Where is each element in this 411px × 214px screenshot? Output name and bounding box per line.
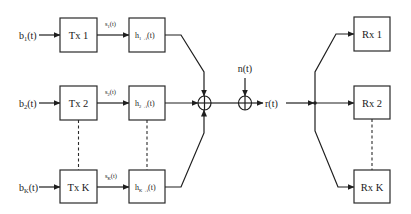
signal-label-sk: sK(t) xyxy=(105,172,117,181)
user-chain-k: bK(t) Tx K sK(t) hK→i(t) xyxy=(19,110,204,203)
channel-wire-k xyxy=(165,110,204,187)
rx-label-2: Rx 2 xyxy=(362,98,382,109)
noise-label: n(t) xyxy=(238,63,252,75)
signal-label-s1: s1(t) xyxy=(105,20,116,29)
block-diagram: b1(t) Tx 1 s1(t) h1→i(t) b2(t) Tx 2 s2(t… xyxy=(0,0,411,214)
input-label-b1: b1(t) xyxy=(19,30,37,43)
signal-label-s2: s2(t) xyxy=(105,88,116,97)
fanout-wire-k xyxy=(315,103,354,187)
fanout-wire-1 xyxy=(315,34,354,103)
received-label: r(t) xyxy=(265,98,278,110)
channel-summer xyxy=(198,96,211,110)
tx-label-2: Tx 2 xyxy=(69,98,89,109)
noise-summer xyxy=(239,96,252,110)
channel-wire-1 xyxy=(165,35,204,96)
input-label-b2: b2(t) xyxy=(19,98,37,111)
user-chain-1: b1(t) Tx 1 s1(t) h1→i(t) xyxy=(19,18,204,96)
input-label-bk: bK(t) xyxy=(19,182,38,195)
user-chain-2: b2(t) Tx 2 s2(t) h2→i(t) xyxy=(19,86,198,120)
tx-label-1: Tx 1 xyxy=(69,30,89,41)
rx-label-k: Rx K xyxy=(361,182,384,193)
tx-label-k: Tx K xyxy=(68,182,90,193)
rx-label-1: Rx 1 xyxy=(362,29,382,40)
